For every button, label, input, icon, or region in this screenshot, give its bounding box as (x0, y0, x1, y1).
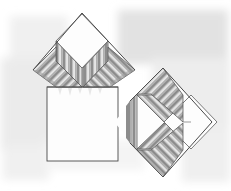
left-white-square (47, 87, 118, 161)
origami-diagram-figure: Origami folding step diagram Two rotated… (0, 0, 231, 191)
right-form-left-spine (130, 94, 137, 150)
wash-top-right (118, 10, 228, 64)
right-form-left-shadow (126, 101, 130, 143)
left-white-square-body (47, 87, 118, 161)
origami-diagram-canvas (0, 0, 231, 191)
wash-bottom-left (3, 146, 49, 180)
